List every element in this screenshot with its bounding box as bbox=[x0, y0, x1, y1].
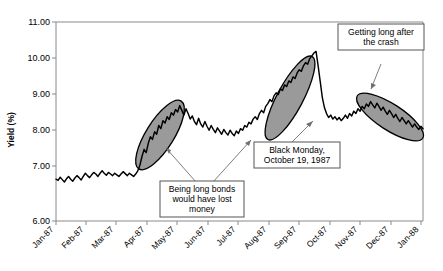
x-tick-label: Jan-87 bbox=[30, 224, 56, 250]
yield-chart: Yield (%) 11.00 10.00 9.00 8.00 7.00 6.0… bbox=[0, 0, 443, 271]
y-tick-label: 7.00 bbox=[32, 161, 50, 171]
x-tick-label: Mar-87 bbox=[89, 224, 115, 250]
chart-svg: Yield (%) 11.00 10.00 9.00 8.00 7.00 6.0… bbox=[0, 0, 443, 271]
x-tick-label: May-87 bbox=[149, 224, 176, 251]
annotation-getting-long[interactable]: Getting long after the crash bbox=[338, 24, 424, 50]
x-tick-label: Nov-87 bbox=[333, 224, 360, 251]
y-axis-tick-labels: 11.00 10.00 9.00 8.00 7.00 6.00 bbox=[27, 17, 50, 226]
annotation-line: October 19, 1987 bbox=[264, 155, 331, 165]
x-tick-label: Sep-87 bbox=[272, 224, 299, 251]
y-tick-label: 11.00 bbox=[28, 17, 50, 27]
annotation-being-long-bonds[interactable]: Being long bonds would have lost money bbox=[160, 181, 244, 217]
annotation-line: would have lost bbox=[171, 194, 232, 204]
y-axis-ticks bbox=[52, 22, 56, 221]
annotation-line: money bbox=[189, 204, 215, 214]
annotation-line: Being long bonds bbox=[169, 184, 235, 194]
y-axis-title: Yield (%) bbox=[6, 112, 16, 148]
x-tick-label: Apr-87 bbox=[121, 224, 146, 249]
x-axis-tick-labels: Jan-87 Feb-87 Mar-87 Apr-87 May-87 Jun-8… bbox=[30, 224, 421, 251]
x-tick-label: Oct-87 bbox=[304, 224, 329, 249]
annotation-black-monday[interactable]: Black Monday, October 19, 1987 bbox=[254, 142, 340, 168]
annotation-line: the crash bbox=[363, 37, 399, 47]
y-tick-label: 9.00 bbox=[32, 89, 50, 99]
highlight-ellipse-rising-yields-early-1987 bbox=[127, 94, 193, 177]
x-axis-ticks bbox=[56, 221, 421, 225]
x-tick-label: Aug-87 bbox=[242, 224, 269, 251]
x-tick-label: Jun-87 bbox=[182, 224, 208, 250]
x-tick-label: Jan-88 bbox=[395, 224, 421, 250]
annotation-line: Getting long after bbox=[348, 27, 414, 37]
annotation-line: Black Monday, bbox=[269, 145, 325, 155]
y-tick-label: 10.00 bbox=[27, 53, 50, 63]
x-tick-label: Jul-87 bbox=[214, 224, 238, 248]
x-tick-label: Feb-87 bbox=[59, 224, 85, 250]
x-tick-label: Dec-87 bbox=[364, 224, 391, 251]
highlight-ellipse-rising-yields-pre-crash bbox=[256, 50, 323, 145]
y-tick-label: 8.00 bbox=[32, 125, 50, 135]
highlight-ellipse-falling-yields-post-crash bbox=[350, 85, 430, 149]
